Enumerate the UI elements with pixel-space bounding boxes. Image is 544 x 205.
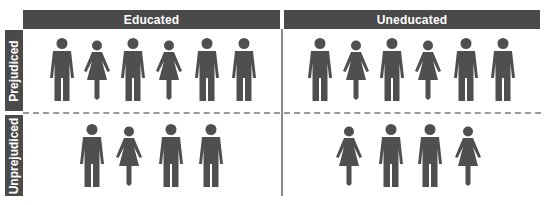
row-label-prejudiced: Prejudiced — [5, 30, 23, 111]
man-icon — [417, 124, 443, 188]
woman-icon — [83, 40, 111, 100]
column-header-educated: Educated — [23, 10, 280, 29]
man-icon — [453, 38, 479, 102]
woman-icon — [155, 40, 183, 100]
man-icon — [158, 124, 184, 188]
row-divider-dashed — [23, 112, 541, 114]
man-icon — [120, 38, 146, 102]
man-icon — [307, 38, 333, 102]
man-icon — [194, 38, 220, 102]
woman-icon — [335, 126, 363, 186]
man-icon — [231, 38, 257, 102]
man-icon — [198, 124, 224, 188]
woman-icon — [414, 40, 442, 100]
row-label-prejudiced-text: Prejudiced — [7, 40, 21, 101]
woman-icon — [342, 40, 370, 100]
row-label-unprejudiced: Unprejudiced — [5, 115, 23, 196]
man-icon — [79, 124, 105, 188]
man-icon — [490, 38, 516, 102]
woman-icon — [115, 126, 143, 186]
man-icon — [379, 38, 405, 102]
man-icon — [378, 124, 404, 188]
woman-icon — [454, 126, 482, 186]
row-label-unprejudiced-text: Unprejudiced — [7, 117, 21, 194]
column-header-uneducated: Uneducated — [284, 10, 540, 29]
man-icon — [49, 38, 75, 102]
